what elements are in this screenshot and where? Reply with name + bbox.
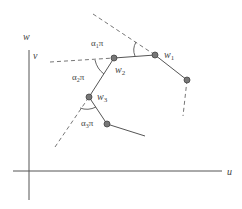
- axis-label-v: v: [33, 50, 38, 61]
- angle-arc-alpha1: [134, 42, 136, 56]
- angle-arc-alpha2: [95, 60, 104, 74]
- node-w1: [152, 52, 158, 58]
- axis-label-w: w: [23, 31, 30, 42]
- angle-arc-alpha3: [80, 107, 96, 109]
- axis-label-u: u: [227, 166, 232, 177]
- dashed-extension-w2: [50, 58, 114, 62]
- angle-label-alpha1: α1π: [91, 38, 104, 49]
- polygonal-chain-diagram: w v u α1π α2π α3π w1 w2 w3: [0, 0, 242, 209]
- node-label-w2: w2: [115, 64, 126, 77]
- node-label-w1: w1: [164, 49, 175, 62]
- dashed-extension-n0: [183, 80, 187, 116]
- angle-label-alpha3: α3π: [81, 118, 94, 129]
- node-w2: [111, 55, 117, 61]
- segment-n4-end: [107, 124, 145, 136]
- angle-label-alpha2: α2π: [72, 72, 85, 83]
- node-n0: [184, 77, 190, 83]
- node-n4: [104, 121, 110, 127]
- node-label-w3: w3: [97, 91, 108, 104]
- dashed-extension-w1: [93, 14, 155, 55]
- node-w3: [86, 94, 92, 100]
